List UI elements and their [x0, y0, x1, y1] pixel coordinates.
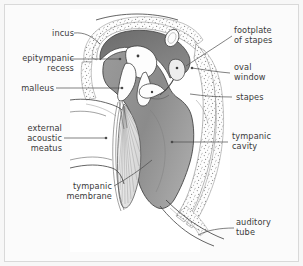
stapes-footplate — [169, 59, 185, 80]
label-external-acoustic-meatus: external acoustic meatus — [8, 123, 62, 154]
label-epitympanic-recess: epitympanic recess — [8, 53, 74, 73]
label-stapes: stapes — [236, 92, 290, 102]
label-malleus: malleus — [12, 83, 54, 93]
figure-root: incus epitympanic recess malleus externa… — [0, 0, 303, 266]
label-incus: incus — [16, 28, 74, 38]
label-tympanic-membrane: tympanic membrane — [24, 181, 112, 201]
label-footplate-of-stapes: footplate of stapes — [234, 25, 302, 45]
label-tympanic-cavity: tympanic cavity — [232, 131, 294, 151]
label-auditory-tube: auditory tube — [236, 217, 294, 237]
label-oval-window: oval window — [234, 62, 294, 82]
